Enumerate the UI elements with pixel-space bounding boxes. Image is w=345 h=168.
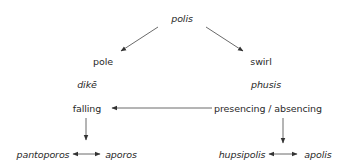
node-apolis: apolis xyxy=(304,149,331,160)
node-phusis: phusis xyxy=(251,79,281,90)
node-aporos: aporos xyxy=(105,149,137,160)
node-falling: falling xyxy=(73,103,101,114)
node-dike: dikē xyxy=(77,79,97,90)
diagram-edges xyxy=(0,0,345,168)
node-pole: pole xyxy=(93,56,113,67)
node-pantoporos: pantoporos xyxy=(17,149,70,160)
node-polis: polis xyxy=(171,13,193,24)
node-swirl: swirl xyxy=(250,56,271,67)
arrow-polis-to-pole xyxy=(121,27,158,51)
arrow-polis-to-swirl xyxy=(206,27,243,51)
node-presencing-absencing: presencing / absencing xyxy=(214,103,322,114)
node-hupsipolis: hupsipolis xyxy=(219,149,266,160)
